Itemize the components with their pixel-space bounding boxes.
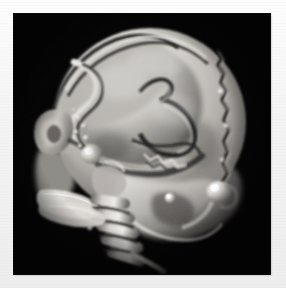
- noise-wash: [14, 14, 270, 274]
- figure-page: Three-dimensional CT volume-rendered rec…: [0, 0, 286, 288]
- skull-volume-render: [14, 14, 270, 274]
- ct-render-viewport: [14, 14, 270, 274]
